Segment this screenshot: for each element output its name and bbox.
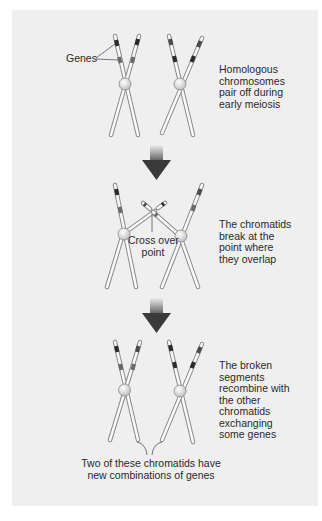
centromere-icon	[174, 78, 186, 90]
bracket-pointer-line	[152, 442, 162, 455]
stage-1-caption: Homologous chromosomes pair off during e…	[219, 64, 285, 110]
genes-label: Genes	[66, 52, 97, 64]
stage-2-caption: The chromatids break at the point where …	[219, 219, 291, 265]
arrow-down-icon	[142, 145, 171, 180]
chromosome-pair-right	[162, 36, 202, 135]
stage-3-caption: The broken segments recombine with the o…	[219, 360, 290, 441]
centromere-icon	[119, 384, 131, 396]
stage-3-chromosomes	[110, 342, 202, 455]
centromere-icon	[174, 385, 186, 397]
bracket-pointer-line	[137, 442, 147, 455]
chromosome-pair-left	[111, 36, 139, 135]
crossover-point-label: Cross over point	[128, 235, 178, 258]
genes-pointer-line	[96, 44, 115, 58]
new-combinations-label: Two of these chromatids have new combina…	[76, 458, 226, 481]
stage-1-chromosomes	[96, 36, 202, 135]
arrow-down-icon	[142, 298, 171, 333]
genes-pointer-line	[96, 59, 118, 60]
centromere-icon	[119, 78, 131, 90]
